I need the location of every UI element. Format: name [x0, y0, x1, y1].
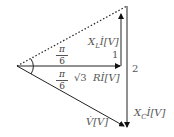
length-1-label: 1 — [112, 50, 118, 60]
xc-label: XCİ[V] — [134, 108, 165, 121]
ri-label: √3 Rİ[V] — [74, 73, 120, 83]
length-2-label: 2 — [132, 64, 138, 74]
angle-lower-label: π 6 — [56, 69, 68, 91]
angle-upper-label: π 6 — [56, 44, 68, 66]
v-label: V̇[V] — [86, 117, 108, 127]
